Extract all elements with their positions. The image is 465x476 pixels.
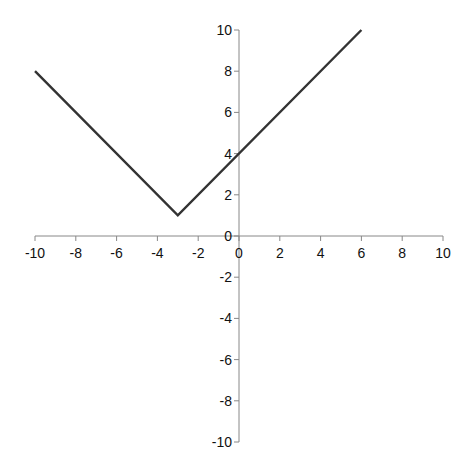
x-tick-label: 0 (235, 245, 243, 261)
y-tick-label: -4 (220, 310, 233, 326)
data-series (35, 30, 361, 215)
y-tick-label: 2 (224, 187, 232, 203)
y-tick-label: 10 (216, 22, 232, 38)
x-tick-label: -8 (70, 245, 83, 261)
y-tick-label: -2 (220, 269, 233, 285)
x-tick-label: 6 (358, 245, 366, 261)
x-tick-label: -4 (151, 245, 164, 261)
y-tick-label: 4 (224, 146, 232, 162)
x-tick-label: -10 (25, 245, 45, 261)
x-axis-tick-labels: -10-8-6-4-20246810 (25, 245, 451, 261)
chart-canvas: -10-8-6-4-20246810 -10-8-6-4-20246810 (0, 0, 465, 476)
x-tick-label: 10 (435, 245, 451, 261)
x-tick-label: 8 (398, 245, 406, 261)
x-tick-label: 2 (276, 245, 284, 261)
y-tick-label: -10 (212, 434, 232, 450)
y-tick-label: 8 (224, 63, 232, 79)
x-tick-label: -2 (192, 245, 205, 261)
y-tick-label: -6 (220, 352, 233, 368)
series-line (35, 30, 361, 215)
y-tick-label: 0 (224, 228, 232, 244)
x-tick-label: 4 (317, 245, 325, 261)
y-tick-label: -8 (220, 393, 233, 409)
y-tick-label: 6 (224, 104, 232, 120)
x-tick-label: -6 (110, 245, 123, 261)
